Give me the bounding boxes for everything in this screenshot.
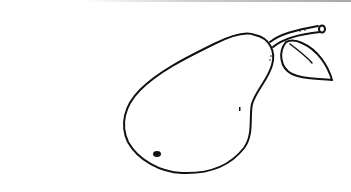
pear-illustration (0, 0, 351, 192)
stem-mark (299, 30, 301, 32)
neck-dot (270, 55, 272, 57)
blossom-spot (153, 151, 161, 157)
leaf (281, 41, 332, 80)
speck (239, 107, 241, 111)
stem (270, 26, 320, 47)
pear-body (124, 33, 273, 173)
neck-dot (269, 59, 271, 61)
stem-tip (319, 26, 325, 33)
stem-mark (304, 29, 306, 31)
